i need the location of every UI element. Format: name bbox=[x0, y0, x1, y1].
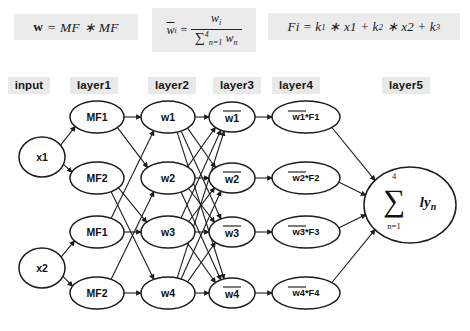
node-label-w2: w2 bbox=[160, 172, 175, 184]
node-label-w4: w4 bbox=[160, 287, 175, 299]
edge-group bbox=[60, 117, 375, 293]
node-label-wf3: w3*F3 bbox=[292, 227, 320, 237]
node-label-w1: w1 bbox=[160, 111, 175, 123]
edge-mf2a-to-w3 bbox=[118, 188, 146, 223]
edge-x2-to-mf1b bbox=[61, 241, 75, 257]
node-label-x2: x2 bbox=[36, 262, 48, 274]
edge-x1-to-mf1a bbox=[60, 126, 75, 145]
anfis-diagram: w = MF ∗ MF wi = wi ∑4n=1 wn Fi = k1 ∗ x… bbox=[0, 0, 470, 331]
edge-x2-to-mf2b bbox=[63, 276, 73, 286]
node-label-w3: w3 bbox=[160, 226, 175, 238]
node-label-wbar1: w1 bbox=[224, 112, 239, 124]
node-label-wbar3: w3 bbox=[224, 227, 239, 239]
node-label-wf4: w4*F4 bbox=[292, 288, 321, 298]
summation-lower-limit: n=1 bbox=[387, 221, 400, 231]
node-label-mf2b: MF2 bbox=[87, 287, 108, 299]
node-label-wbar4: w4 bbox=[224, 288, 239, 300]
node-label-mf1b: MF1 bbox=[87, 226, 108, 238]
node-group: x1x2MF1MF2MF1MF2w1w2w3w4w1w2w3w4w1*F1w2*… bbox=[19, 101, 456, 309]
node-label-wbar2: w2 bbox=[224, 173, 239, 185]
sigma-icon: ∑ bbox=[383, 183, 405, 218]
node-label-wf2: w2*F2 bbox=[292, 173, 320, 183]
edge-wf2-to-sum bbox=[339, 182, 366, 196]
node-label-mf1a: MF1 bbox=[87, 111, 108, 123]
network-canvas: x1x2MF1MF2MF1MF2w1w2w3w4w1w2w3w4w1*F1w2*… bbox=[0, 0, 470, 331]
node-label-wf1: w1*F1 bbox=[292, 112, 320, 122]
edge-wf3-to-sum bbox=[339, 214, 366, 228]
edge-mf1a-to-w2 bbox=[117, 127, 147, 167]
edge-x1-to-mf2a bbox=[63, 164, 72, 172]
node-label-x1: x1 bbox=[36, 151, 48, 163]
node-label-mf2a: MF2 bbox=[87, 172, 108, 184]
node-summation[interactable] bbox=[364, 167, 456, 243]
